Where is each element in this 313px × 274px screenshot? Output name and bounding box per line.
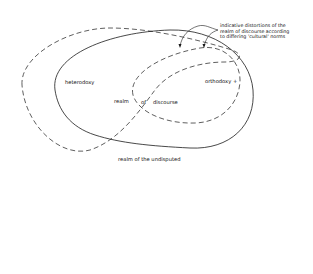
label-of: of — [141, 100, 146, 105]
annotation-line-3: to differing 'cultural' norms — [220, 34, 289, 40]
diagram-canvas — [0, 0, 313, 274]
annotation-text: indicative distortions of the realm of d… — [220, 23, 289, 40]
label-undisputed: realm of the undisputed — [118, 157, 180, 162]
label-realm: realm — [114, 99, 129, 104]
label-orthodoxy: orthodoxy + — [205, 79, 237, 84]
solid-ellipse — [55, 30, 254, 148]
label-heterodoxy: heterodoxy — [65, 80, 94, 85]
annotation-arrow-left — [180, 25, 218, 46]
arrowhead-left-icon — [179, 44, 182, 48]
dashed-inner-ellipse — [132, 47, 240, 123]
annotation-line-1: indicative distortions of the — [220, 23, 289, 29]
label-discourse: discourse — [153, 100, 178, 105]
